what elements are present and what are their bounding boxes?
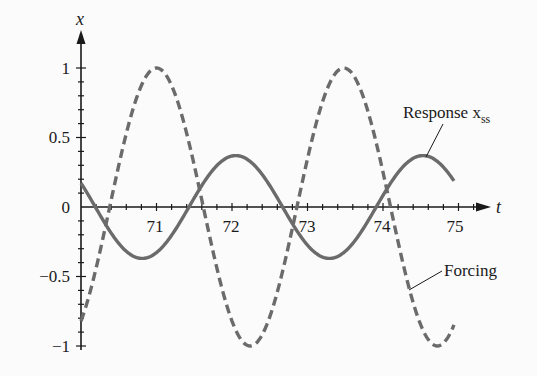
response-leader-line	[426, 124, 443, 157]
plot-area: x t 1 0.5 0 −0.5 −1 71 72 73 74 75 Respo…	[0, 0, 537, 376]
y-tick-label: −0.5	[39, 267, 70, 286]
x-tick-label: 73	[299, 217, 316, 236]
y-axis-label: x	[75, 9, 84, 29]
x-tick-label: 74	[374, 217, 392, 236]
x-axis-label: t	[496, 197, 502, 217]
y-tick-label: −1	[52, 337, 70, 356]
y-tick-label: 0.5	[49, 128, 70, 147]
y-tick-label: 0	[62, 198, 71, 217]
x-tick-label: 71	[147, 217, 164, 236]
x-tick-label: 75	[447, 217, 464, 236]
response-annotation: Response xss	[403, 103, 491, 126]
y-axis-arrow-icon	[77, 30, 86, 44]
y-tick-label: 1	[62, 59, 71, 78]
x-tick-label: 72	[223, 217, 240, 236]
forcing-annotation: Forcing	[444, 261, 497, 280]
chart-figure: x t 1 0.5 0 −0.5 −1 71 72 73 74 75 Respo…	[0, 0, 537, 376]
forcing-leader-line	[409, 271, 442, 290]
x-axis-arrow-icon	[476, 203, 491, 212]
